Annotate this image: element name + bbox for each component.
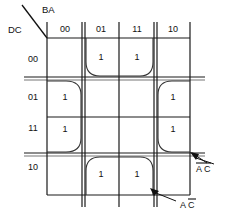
kmap-canvas: BA DC 00 01 11 10 00 01 11 10 1 1 1 1 1 [0, 0, 227, 218]
row-header-1: 01 [28, 92, 38, 102]
cell-r2c0: 1 [62, 124, 67, 134]
cell-r0c2: 1 [134, 52, 139, 62]
annotation-bottom-char2: C [188, 200, 195, 210]
columns-variable-label: BA [42, 4, 55, 15]
column-header-3: 10 [168, 24, 178, 34]
cell-r3c2: 1 [134, 169, 139, 179]
cell-r1c3: 1 [170, 92, 175, 102]
row-header-0: 00 [28, 54, 38, 64]
figure-background [0, 0, 227, 218]
column-header-1: 01 [96, 24, 106, 34]
row-header-2: 11 [28, 123, 37, 133]
column-header-2: 11 [132, 24, 141, 34]
cell-r0c1: 1 [98, 52, 103, 62]
annotation-bottom-char1: A [180, 200, 186, 210]
cell-r2c3: 1 [170, 124, 175, 134]
karnaugh-map-figure: BA DC 00 01 11 10 00 01 11 10 1 1 1 1 1 [0, 0, 227, 218]
rows-variable-label: DC [8, 24, 22, 35]
cell-r3c1: 1 [98, 169, 103, 179]
column-header-0: 00 [60, 24, 70, 34]
annotation-right-char2: C [204, 164, 211, 174]
row-header-3: 10 [28, 162, 38, 172]
cell-r1c0: 1 [62, 92, 67, 102]
annotation-right-char1: A [196, 164, 202, 174]
